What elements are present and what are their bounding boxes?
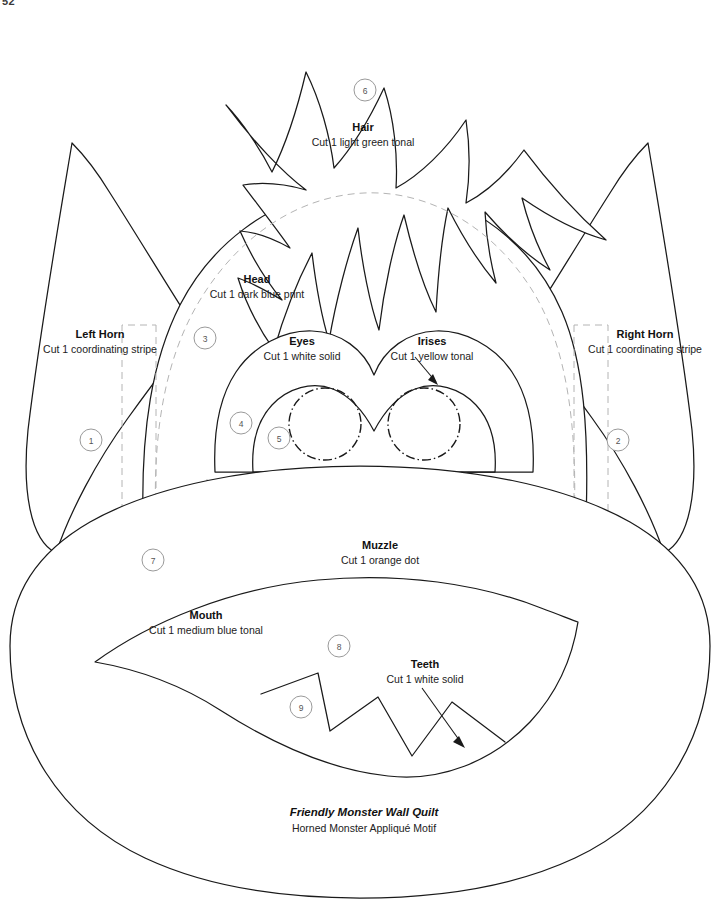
badge-1-number: 1 — [89, 436, 94, 446]
label-left-horn-cut: Cut 1 coordinating stripe — [43, 343, 157, 355]
badge-2-number: 2 — [616, 436, 621, 446]
label-right-horn-title: Right Horn — [617, 328, 674, 340]
label-mouth-title: Mouth — [190, 609, 223, 621]
appliqué-pattern-sheet: 52 — [0, 0, 720, 899]
label-eyes-title: Eyes — [289, 335, 315, 347]
label-teeth-title: Teeth — [411, 658, 440, 670]
label-mouth-cut: Cut 1 medium blue tonal — [149, 624, 263, 636]
badge-7-number: 7 — [151, 556, 156, 566]
pattern-diagram: Left Horn Cut 1 coordinating stripe Righ… — [0, 0, 720, 899]
badge-6-number: 6 — [363, 86, 368, 96]
label-head-cut: Cut 1 dark blue print — [210, 288, 305, 300]
badge-8: 8 — [328, 635, 350, 657]
badge-9: 9 — [290, 696, 312, 718]
badge-3: 3 — [194, 327, 216, 349]
badge-4: 4 — [230, 412, 252, 434]
label-muzzle-title: Muzzle — [362, 539, 398, 551]
label-left-horn-title: Left Horn — [76, 328, 125, 340]
badge-1: 1 — [80, 429, 102, 451]
page-number: 52 — [2, 0, 15, 7]
badge-5: 5 — [268, 427, 290, 449]
label-muzzle-cut: Cut 1 orange dot — [341, 554, 419, 566]
label-eyes-cut: Cut 1 white solid — [263, 350, 340, 362]
pattern-title: Friendly Monster Wall Quilt — [290, 806, 440, 818]
badge-2: 2 — [607, 429, 629, 451]
label-hair-title: Hair — [352, 121, 374, 133]
badge-3-number: 3 — [203, 334, 208, 344]
badge-9-number: 9 — [299, 703, 304, 713]
badge-5-number: 5 — [277, 434, 282, 444]
label-teeth-cut: Cut 1 white solid — [386, 673, 463, 685]
pattern-subtitle: Horned Monster Appliqué Motif — [292, 822, 436, 834]
badge-6: 6 — [354, 79, 376, 101]
label-head-title: Head — [244, 273, 271, 285]
label-irises-title: Irises — [418, 335, 447, 347]
label-irises-cut: Cut 1 yellow tonal — [391, 350, 474, 362]
badge-8-number: 8 — [337, 642, 342, 652]
label-hair-cut: Cut 1 light green tonal — [312, 136, 415, 148]
label-right-horn-cut: Cut 1 coordinating stripe — [588, 343, 702, 355]
badge-4-number: 4 — [239, 419, 244, 429]
badge-7: 7 — [142, 549, 164, 571]
